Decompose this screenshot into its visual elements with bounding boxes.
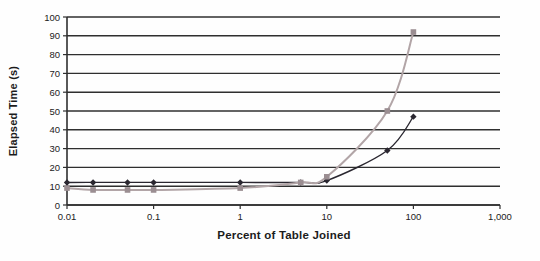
square-marker bbox=[64, 185, 70, 191]
y-tick-label: 30 bbox=[49, 143, 60, 154]
y-tick-label: 100 bbox=[44, 12, 60, 23]
series-line-diamond-series bbox=[67, 117, 413, 184]
diamond-marker bbox=[64, 179, 70, 185]
chart-canvas: 01020304050607080901000.010.11101001,000 bbox=[0, 0, 540, 261]
y-tick-label: 0 bbox=[55, 200, 60, 211]
y-tick-label: 20 bbox=[49, 162, 60, 173]
chart-container: Elapsed Time (s) 01020304050607080901000… bbox=[0, 0, 540, 261]
y-tick-label: 80 bbox=[49, 49, 60, 60]
square-marker bbox=[90, 187, 96, 193]
y-tick-label: 10 bbox=[49, 181, 60, 192]
square-marker bbox=[125, 187, 131, 193]
y-tick-label: 90 bbox=[49, 30, 60, 41]
square-marker bbox=[385, 108, 391, 114]
diamond-marker bbox=[90, 179, 96, 185]
x-axis-title: Percent of Table Joined bbox=[217, 229, 350, 241]
diamond-marker bbox=[150, 179, 156, 185]
square-marker bbox=[151, 187, 157, 193]
diamond-marker bbox=[124, 179, 130, 185]
x-tick-label: 1,000 bbox=[488, 211, 512, 222]
diamond-marker bbox=[237, 179, 243, 185]
square-marker bbox=[237, 185, 243, 191]
y-tick-label: 70 bbox=[49, 68, 60, 79]
square-marker bbox=[324, 174, 330, 180]
y-tick-label: 40 bbox=[49, 124, 60, 135]
y-tick-label: 50 bbox=[49, 106, 60, 117]
x-tick-label: 100 bbox=[405, 211, 421, 222]
x-tick-label: 0.01 bbox=[58, 211, 77, 222]
y-tick-label: 60 bbox=[49, 87, 60, 98]
square-marker bbox=[298, 180, 304, 186]
x-tick-label: 1 bbox=[238, 211, 243, 222]
x-tick-label: 10 bbox=[322, 211, 333, 222]
square-marker bbox=[411, 29, 417, 35]
x-tick-label: 0.1 bbox=[147, 211, 160, 222]
y-axis-title: Elapsed Time (s) bbox=[7, 66, 19, 156]
